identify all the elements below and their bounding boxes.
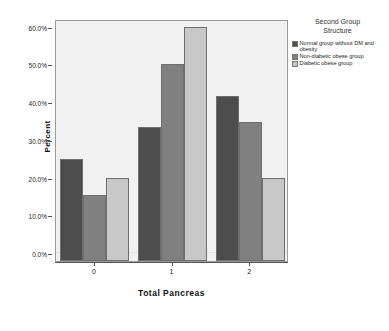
bar xyxy=(239,122,262,261)
y-tick-label: 20.0% xyxy=(29,175,47,182)
bar-chart: Percent 0.0%10.0%20.0%30.0%40.0%50.0%60.… xyxy=(0,0,389,331)
y-tick-label: 10.0% xyxy=(29,213,47,220)
y-tick-mark xyxy=(48,103,52,104)
bar-group xyxy=(138,21,207,261)
bar xyxy=(161,64,184,261)
y-tick-mark xyxy=(48,28,52,29)
legend-title-line2: Structure xyxy=(292,27,383,36)
bar-group xyxy=(60,21,129,261)
bar xyxy=(60,159,83,261)
legend-title: Second Group Structure xyxy=(292,18,387,35)
y-tick-label: 0.0% xyxy=(32,251,47,258)
y-tick-label: 50.0% xyxy=(29,62,47,69)
legend-item: Non-diabetic obese group xyxy=(292,53,387,60)
legend-swatch-icon xyxy=(292,41,298,47)
x-tick-mark xyxy=(172,262,173,266)
y-tick-mark xyxy=(48,179,52,180)
x-axis-title: Total Pancreas xyxy=(55,288,288,298)
legend: Second Group Structure Normal group with… xyxy=(292,18,387,68)
legend-item: Diabetic obese group xyxy=(292,60,387,67)
bars-layer xyxy=(56,21,287,261)
bar xyxy=(216,96,239,261)
x-tick-mark xyxy=(94,262,95,266)
bar xyxy=(106,178,129,261)
bar xyxy=(184,27,207,261)
y-tick-label: 30.0% xyxy=(29,137,47,144)
y-tick-mark xyxy=(48,65,52,66)
bar xyxy=(138,127,161,261)
legend-items: Normal group without DM and obesityNon-d… xyxy=(292,40,387,67)
x-tick-label: 0 xyxy=(84,268,104,275)
legend-item-label: Non-diabetic obese group xyxy=(300,53,364,59)
y-tick-label: 60.0% xyxy=(29,24,47,31)
legend-swatch-icon xyxy=(292,61,298,67)
legend-item-label: Diabetic obese group xyxy=(300,60,353,66)
x-axis-ticks: 012 xyxy=(55,262,288,282)
x-tick-mark xyxy=(249,262,250,266)
x-tick-label: 1 xyxy=(162,268,182,275)
legend-item: Normal group without DM and obesity xyxy=(292,40,387,52)
y-tick-label: 40.0% xyxy=(29,100,47,107)
bar xyxy=(262,178,285,261)
y-tick-mark xyxy=(48,254,52,255)
legend-item-label: Normal group without DM and obesity xyxy=(300,40,388,52)
legend-swatch-icon xyxy=(292,54,298,60)
y-tick-mark xyxy=(48,141,52,142)
y-tick-mark xyxy=(48,216,52,217)
bar xyxy=(83,195,106,261)
y-axis-ticks: 0.0%10.0%20.0%30.0%40.0%50.0%60.0% xyxy=(12,20,52,262)
plot-area xyxy=(55,20,288,262)
bar-group xyxy=(216,21,285,261)
x-tick-label: 2 xyxy=(239,268,259,275)
legend-title-line1: Second Group xyxy=(292,18,383,27)
